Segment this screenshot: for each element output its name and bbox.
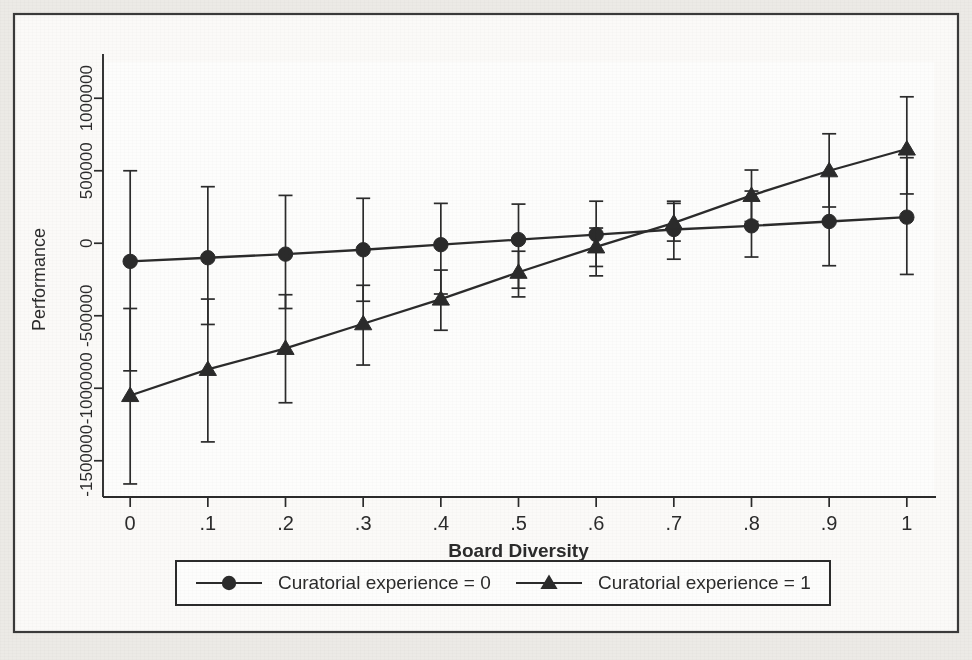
x-axis-tick-label: .4 [432,512,449,534]
legend-item-label: Curatorial experience = 1 [598,572,811,593]
data-point-marker-circle [900,210,914,224]
y-axis-tick-label: -1000000 [77,352,96,424]
y-axis-title: Performance [29,228,49,331]
x-axis-tick-label: .7 [665,512,682,534]
x-axis-tick-label: 0 [125,512,136,534]
y-axis-tick-label: 500000 [77,142,96,199]
x-axis-tick-label: .6 [588,512,605,534]
data-point-marker-circle [278,247,292,261]
x-axis-tick-label: .8 [743,512,760,534]
x-axis-title: Board Diversity [448,540,589,561]
legend-item-label: Curatorial experience = 0 [278,572,491,593]
y-axis-tick-label: -500000 [77,285,96,347]
x-axis-tick-label: .1 [200,512,217,534]
figure-frame: 10000005000000-500000-1000000-1500000Per… [0,0,972,660]
x-axis-tick-label: .3 [355,512,372,534]
legend-marker-circle [222,576,236,590]
y-axis-tick-label: 0 [77,239,96,248]
y-axis-tick-label: 1000000 [77,65,96,131]
data-point-marker-circle [434,238,448,252]
x-axis-tick-label: .5 [510,512,527,534]
chart-canvas: 10000005000000-500000-1000000-1500000Per… [0,0,972,660]
data-point-marker-circle [201,251,215,265]
data-point-marker-circle [123,254,137,268]
x-axis-tick-label: .2 [277,512,294,534]
data-point-marker-circle [511,232,525,246]
x-axis-tick-label: .9 [821,512,838,534]
x-axis-tick-label: 1 [901,512,912,534]
y-axis-tick-label: -1500000 [77,425,96,497]
data-point-marker-circle [822,214,836,228]
data-point-marker-circle [356,243,370,257]
